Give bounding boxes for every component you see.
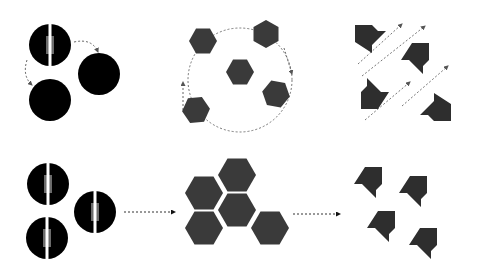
hexagon-icon (226, 60, 254, 85)
hexagon-icon (185, 212, 223, 245)
hexagon-icon (251, 212, 289, 245)
stage-hexagon-tiling (185, 159, 289, 245)
split-sphere-icon (29, 23, 71, 67)
sphere-icon (78, 53, 120, 95)
hexagon-icon (218, 159, 256, 192)
arrow-shape-icon (401, 43, 429, 74)
stage-spheres-diffusing (25, 23, 120, 121)
arrow-shape-icon (399, 176, 427, 207)
arrow-shape-icon (354, 167, 382, 198)
hexagon-icon (189, 29, 217, 54)
stage-arrows-translating (355, 24, 451, 121)
hexagon-icon (254, 20, 279, 48)
arrow-shape-icon (420, 93, 451, 121)
split-sphere-icon (27, 162, 69, 206)
arrow-shape-icon (355, 25, 386, 53)
dashed-arrow-icon (25, 60, 32, 85)
arrow-shape-icon (409, 228, 437, 259)
hexagon-icon (181, 96, 211, 123)
stage-aligned-arrows (354, 167, 437, 259)
arrow-shape-icon (361, 78, 389, 109)
stage-hexagons-rotating (181, 20, 292, 132)
assembly-diagram (0, 0, 479, 278)
hexagon-icon (218, 194, 256, 227)
split-sphere-icon (26, 216, 68, 260)
hexagon-icon (260, 79, 292, 108)
stage-split-spheres-cluster (26, 162, 116, 260)
split-sphere-icon (74, 190, 116, 234)
dashed-arrow-icon (74, 41, 98, 52)
hexagon-icon (185, 177, 223, 210)
sphere-icon (29, 79, 71, 121)
arrow-shape-icon (367, 211, 395, 242)
